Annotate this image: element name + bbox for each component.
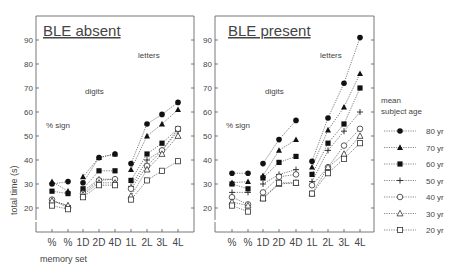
y-tick-label: 60: [203, 108, 212, 117]
x-tick-label: %: [228, 237, 237, 248]
data-point: [325, 147, 331, 153]
data-point: [341, 151, 347, 157]
annotation-letters-right: letters: [320, 51, 342, 60]
y-tick-label: 70: [203, 84, 212, 93]
data-point: [245, 209, 250, 214]
data-point: [325, 141, 330, 146]
data-point: [357, 35, 363, 41]
y-tick-label: 90: [24, 36, 33, 45]
data-point: [276, 137, 282, 143]
data-point: [309, 164, 315, 170]
legend-marker-icon: [397, 144, 403, 150]
data-point: [159, 121, 165, 127]
y-tick-label: 50: [24, 132, 33, 141]
annotation-letters-left: letters: [138, 51, 160, 60]
data-point: [159, 112, 165, 118]
data-point: [357, 126, 363, 132]
data-point: [128, 197, 133, 202]
data-point: [49, 203, 54, 208]
legend-marker-icon: [397, 128, 403, 134]
data-point: [159, 168, 164, 173]
data-point: [65, 191, 70, 196]
data-point: [357, 70, 363, 76]
y-axis-label: total time (s): [9, 165, 19, 215]
data-point: [341, 104, 347, 110]
y-tick-label: 30: [24, 180, 33, 189]
data-point: [112, 168, 117, 173]
legend-marker-icon: [397, 178, 403, 184]
legend-item: 70 yr: [384, 144, 444, 153]
data-point: [144, 133, 150, 139]
y-tick-label: 80: [24, 60, 33, 69]
legend-label: 30 yr: [426, 210, 444, 219]
data-point: [245, 178, 251, 184]
legend-item: 30 yr: [384, 210, 444, 219]
legend-label: 50 yr: [426, 177, 444, 186]
legend-marker-icon: [397, 210, 403, 216]
x-tick-label: 3L: [338, 237, 350, 248]
legend-label: 60 yr: [426, 160, 444, 169]
y-tick-label: 30: [203, 180, 212, 189]
data-point: [96, 168, 101, 173]
x-tick-label: %: [244, 237, 253, 248]
legend-label: 70 yr: [426, 144, 444, 153]
annotation-digits-right: digits: [265, 87, 284, 96]
y-tick-label: 40: [203, 156, 212, 165]
data-point: [293, 154, 298, 159]
data-point: [159, 141, 164, 146]
data-point: [229, 181, 234, 186]
y-tick-label: 80: [203, 60, 212, 69]
y-tick-label: 20: [203, 204, 212, 213]
data-point: [229, 170, 235, 176]
data-point: [276, 160, 281, 165]
data-point: [325, 115, 331, 121]
y-tick-label: 20: [24, 204, 33, 213]
data-point: [144, 178, 149, 183]
data-point: [276, 174, 282, 180]
legend-label: 40 yr: [426, 193, 444, 202]
data-point: [276, 180, 281, 185]
x-tick-label: 1L: [125, 237, 137, 248]
data-point: [175, 159, 180, 164]
legend-marker-icon: [397, 194, 403, 200]
data-point: [260, 161, 266, 167]
panel-right-title: BLE present: [228, 22, 311, 39]
data-point: [325, 127, 331, 133]
legend-marker-icon: [397, 161, 402, 166]
y-tick-label: 50: [203, 132, 212, 141]
x-tick-label: 4L: [172, 237, 184, 248]
panel-left-title: BLE absent: [43, 22, 121, 39]
data-point: [357, 133, 363, 139]
data-point: [357, 141, 362, 146]
data-point: [341, 80, 347, 86]
x-tick-label: 2L: [141, 237, 153, 248]
x-tick-label: 4D: [109, 237, 122, 248]
data-point: [260, 196, 265, 201]
legend-marker-icon: [397, 227, 402, 232]
data-point: [293, 180, 298, 185]
legend-item: 60 yr: [384, 160, 444, 169]
data-point: [128, 178, 133, 183]
x-tick-label: 1D: [257, 237, 270, 248]
panel-ble-present: 2030405060708090%%1D2D4D1L2L3L4L: [203, 16, 374, 248]
data-point: [357, 85, 362, 90]
data-point: [293, 172, 299, 178]
data-point: [341, 143, 347, 149]
legend: 80 yr70 yr60 yr50 yr40 yr30 yr20 yr: [384, 127, 444, 235]
data-point: [49, 189, 54, 194]
legend-item: 20 yr: [384, 226, 444, 235]
data-point: [65, 179, 71, 185]
data-point: [144, 121, 150, 127]
y-tick-label: 40: [24, 156, 33, 165]
data-point: [293, 118, 299, 124]
data-point: [293, 136, 299, 142]
data-point: [309, 191, 314, 196]
data-point: [260, 181, 266, 187]
data-point: [309, 182, 315, 188]
annotation-percent-sign-left: % sign: [46, 121, 70, 130]
data-point: [96, 183, 101, 188]
x-tick-label: 2L: [322, 237, 334, 248]
annotation-percent-sign-right: % sign: [226, 121, 250, 130]
x-tick-label: 1L: [306, 237, 318, 248]
annotation-digits-left: digits: [85, 87, 104, 96]
